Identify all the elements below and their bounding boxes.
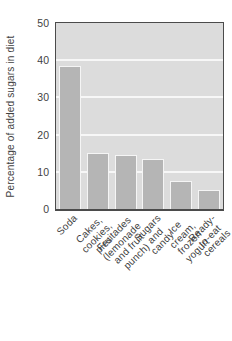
- bar-chart-figure: Percentage of added sugars in diet 01020…: [0, 0, 232, 341]
- x-axis-category-labels: SodaCakes, cookies, piesFruitades (lemon…: [0, 0, 232, 341]
